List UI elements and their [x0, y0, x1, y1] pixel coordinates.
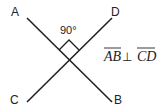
point-label-d: D	[111, 5, 120, 19]
point-label-b: B	[114, 93, 122, 107]
right-angle-marker	[59, 40, 79, 50]
perpendicular-symbol: ⊥	[122, 50, 132, 64]
point-label-c: C	[10, 93, 19, 107]
perpendicular-relation: AB ⊥ CD	[103, 48, 156, 64]
perpendicular-lines-diagram: 90° A D C B AB ⊥ CD	[0, 0, 162, 112]
segment-ab: AB	[103, 49, 122, 64]
diagram-canvas: 90° A D C B AB ⊥ CD	[0, 0, 162, 112]
angle-label: 90°	[60, 24, 77, 36]
segment-cd: CD	[137, 49, 156, 64]
point-label-a: A	[11, 5, 19, 19]
